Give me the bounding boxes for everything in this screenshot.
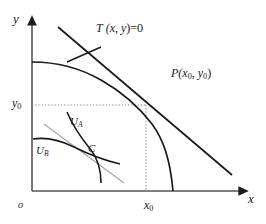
contract-tangent-line-at-c [44,124,124,183]
x0-tick-label-subscript: 0 [149,204,153,213]
curve-ub-subscript: B [44,149,49,158]
economics-diagram-figure: y x o y0 x0 T (x, y)=0 P(x0, y0) UA UB C [0,0,266,224]
point-p-open: (x [178,66,187,80]
frontier-equation-function: T [96,21,103,35]
y-axis-label: y [13,12,19,25]
x-axis-label: x [248,192,254,205]
y0-tick-label: y0 [12,97,21,111]
origin-label: o [18,200,23,210]
y0-tick-label-subscript: 0 [17,102,21,111]
curve-ub-label: UB [36,145,49,157]
frontier-equation-close: )=0 [126,21,143,35]
tangency-point-c-label: C [88,143,95,154]
frontier-equation-open: (x [106,21,115,35]
curve-ua-label: UA [70,116,83,128]
frontier-equation-comma: , [115,21,118,35]
frontier-equation-label: T (x, y)=0 [96,22,143,34]
curve-ua-subscript: A [78,120,83,129]
curve-ub-letter: U [36,144,44,156]
point-p-comma: , [192,66,195,80]
tangent-price-line [58,27,232,175]
point-p-label: P(x0, y0) [171,67,211,81]
curve-ua-letter: U [70,115,78,127]
production-possibility-frontier-curve [32,62,173,191]
point-p-close: ) [207,66,211,80]
x0-tick-label: x0 [144,199,153,213]
